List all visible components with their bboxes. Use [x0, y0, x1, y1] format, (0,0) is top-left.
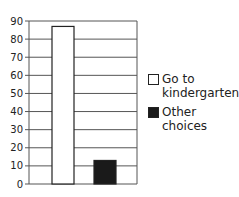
legend: Go to kindergarten Other choices — [148, 72, 239, 138]
gridlines — [25, 21, 137, 184]
bars — [52, 26, 116, 184]
y-tick-label: 40 — [10, 106, 23, 117]
legend-swatch-white — [148, 74, 159, 85]
legend-label: Go to kindergarten — [162, 72, 239, 100]
legend-item-kindergarten: Go to kindergarten — [148, 72, 239, 100]
y-tick-label: 20 — [10, 142, 23, 153]
y-tick-label: 80 — [10, 34, 23, 45]
y-tick-label: 0 — [17, 179, 23, 190]
bar-1 — [94, 160, 116, 184]
legend-item-other: Other choices — [148, 105, 239, 133]
y-tick-label: 70 — [10, 52, 23, 63]
y-tick-label: 90 — [10, 16, 23, 27]
legend-label: Other choices — [162, 105, 207, 133]
y-tick-label: 10 — [10, 160, 23, 171]
legend-swatch-black — [148, 107, 159, 118]
y-tick-label: 30 — [10, 124, 23, 135]
y-tick-label: 50 — [10, 88, 23, 99]
y-tick-label: 60 — [10, 70, 23, 81]
bar-0 — [52, 26, 74, 184]
